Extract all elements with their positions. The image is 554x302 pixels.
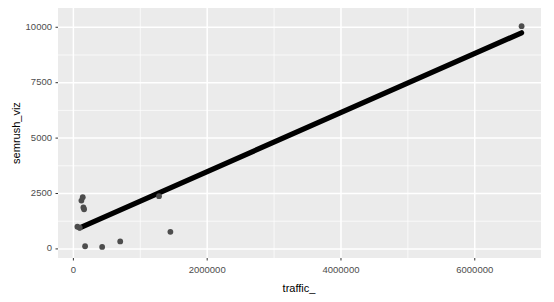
scatter-point bbox=[80, 194, 86, 200]
scatter-point bbox=[156, 193, 162, 199]
scatter-point bbox=[77, 225, 83, 231]
x-tick-label: 6000000 bbox=[456, 264, 493, 275]
y-tick-label: 5000 bbox=[31, 132, 52, 143]
y-tick-label: 0 bbox=[47, 242, 52, 253]
x-tick-label: 2000000 bbox=[189, 264, 226, 275]
scatter-plot-chart: 025005000750010000 020000004000000600000… bbox=[0, 0, 554, 302]
scatter-point bbox=[117, 238, 123, 244]
y-tick-label: 7500 bbox=[31, 76, 52, 87]
scatter-point bbox=[167, 229, 173, 235]
y-axis-title: semrush_viz bbox=[10, 102, 22, 164]
x-axis-title: traffic_ bbox=[283, 282, 317, 294]
y-tick-label: 2500 bbox=[31, 187, 52, 198]
scatter-point bbox=[99, 244, 105, 250]
x-tick-label: 4000000 bbox=[322, 264, 359, 275]
scatter-point bbox=[519, 23, 525, 29]
chart-canvas: 025005000750010000 020000004000000600000… bbox=[0, 0, 554, 302]
scatter-point bbox=[82, 243, 88, 249]
x-tick-label: 0 bbox=[71, 264, 76, 275]
y-tick-label: 10000 bbox=[26, 21, 52, 32]
scatter-point bbox=[81, 206, 87, 212]
